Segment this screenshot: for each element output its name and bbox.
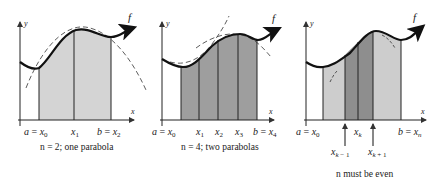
x-axis-label: x	[130, 107, 135, 116]
panel-3: y x f a = x0 xk b = xn xk − 1 xk + 1 n m…	[296, 11, 426, 179]
y-axis-label: y	[309, 19, 314, 28]
y-axis-label: y	[165, 19, 170, 28]
tick-label-x3: x3	[234, 126, 243, 139]
arrow-label-xk-1: xk − 1	[330, 146, 350, 159]
tick-label-x2: b = x2	[97, 126, 121, 139]
function-label: f	[413, 11, 418, 23]
y-axis-label: y	[23, 19, 28, 28]
tick-label-x0: a = x0	[152, 126, 176, 139]
x-axis-label: x	[268, 107, 273, 116]
tick-label-xn: b = xn	[398, 126, 422, 139]
function-label: f	[272, 12, 277, 24]
arrow-label-xk+1: xk + 1	[367, 146, 387, 159]
caption: n must be even	[336, 169, 394, 179]
tick-label-x0: a = x0	[24, 126, 48, 139]
function-label: f	[128, 11, 133, 23]
caption: n = 2; one parabola	[40, 142, 114, 152]
caption: n = 4; two parabolas	[181, 142, 259, 152]
tick-label-x1: x1	[70, 126, 79, 139]
tick-label-x0: a = x0	[296, 126, 320, 139]
panel-1: y x f a = x0 x1 b = x2 n = 2; one parabo…	[18, 11, 146, 152]
panel-2: y x f a = x0 x1 x2 x3 b = x4 n = 4; two …	[152, 12, 278, 152]
tick-label-x2: x2	[214, 126, 223, 139]
simpson-rule-diagram: y x f a = x0 x1 b = x2 n = 2; one parabo…	[0, 0, 448, 182]
tick-label-x1: x1	[195, 126, 204, 139]
shaded-region	[181, 34, 257, 120]
shaded-region	[39, 29, 111, 120]
tick-label-x4: b = x4	[253, 126, 277, 139]
tick-label-xk: xk	[353, 126, 362, 139]
x-axis-label: x	[420, 107, 425, 116]
